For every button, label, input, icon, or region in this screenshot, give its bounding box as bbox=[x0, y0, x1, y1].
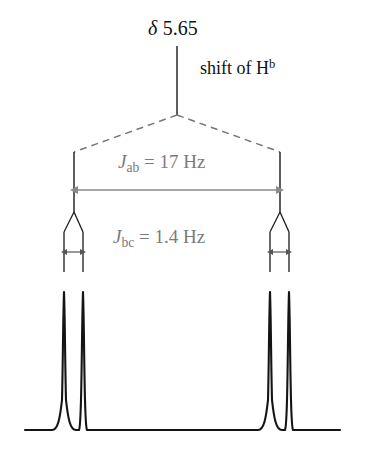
shift-caption-superscript: b bbox=[269, 57, 275, 71]
subbranch-right-b bbox=[280, 212, 289, 232]
subbranch-right-a bbox=[270, 212, 280, 232]
nmr-spectrum-trace bbox=[25, 292, 340, 430]
j-ab-subscript: ab bbox=[126, 160, 139, 175]
j-ab-equals: = bbox=[144, 151, 155, 172]
chemical-shift-value-label: δ 5.65 bbox=[148, 18, 198, 38]
dashed-branch-right bbox=[177, 115, 280, 152]
j-ab-value: 17 bbox=[160, 151, 179, 172]
shift-of-hb-caption: shift of Hb bbox=[200, 58, 275, 77]
nmr-splitting-diagram: δ 5.65 shift of Hb Jab = 17 Hz Jbc = 1.4… bbox=[0, 0, 365, 456]
dashed-branch-left bbox=[74, 115, 177, 152]
subbranch-left-b bbox=[74, 212, 83, 232]
shift-caption-text: shift of H bbox=[200, 58, 269, 78]
j-bc-unit: Hz bbox=[183, 226, 205, 247]
j-ab-coupling-label: Jab = 17 Hz bbox=[118, 152, 205, 175]
delta-symbol: δ bbox=[148, 17, 157, 39]
chemical-shift-number: 5.65 bbox=[163, 17, 198, 39]
j-ab-unit: Hz bbox=[183, 151, 205, 172]
subbranch-left-a bbox=[64, 212, 74, 232]
j-bc-subscript: bc bbox=[121, 235, 134, 250]
j-bc-value: 1.4 bbox=[155, 226, 179, 247]
j-bc-coupling-label: Jbc = 1.4 Hz bbox=[113, 227, 205, 250]
j-bc-equals: = bbox=[139, 226, 150, 247]
